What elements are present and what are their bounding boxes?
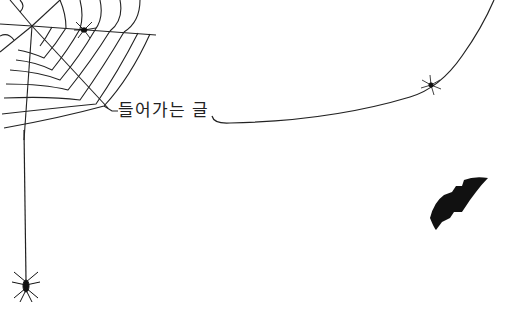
thread-spider-icon bbox=[421, 75, 441, 95]
bat-icon bbox=[430, 177, 488, 230]
thread-line bbox=[212, 0, 494, 123]
page-title: 들어가는 글 bbox=[118, 96, 209, 121]
halloween-scene bbox=[0, 0, 528, 323]
hanging-thread bbox=[24, 130, 26, 280]
